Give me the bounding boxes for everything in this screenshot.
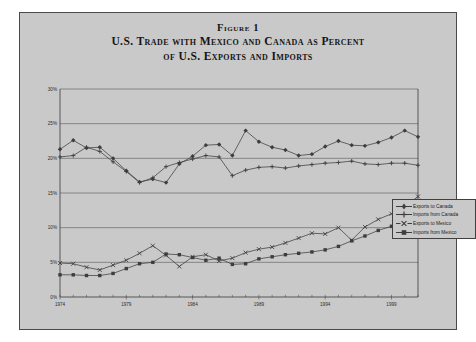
diamond-plus-marker-icon	[396, 203, 412, 210]
legend-item[interactable]: Imports from Mexico	[396, 228, 473, 237]
figure-title-line-1: U.S. Trade with Mexico and Canada as Per…	[20, 34, 456, 49]
figure-number: Figure 1	[20, 21, 456, 34]
x-axis-tick-label: 1999	[386, 302, 397, 307]
x-axis-tick-label: 1979	[121, 302, 132, 307]
y-axis-tick-label: 15%	[48, 191, 57, 196]
x-axis-tick-label: 1989	[254, 302, 265, 307]
legend-label: Imports from Canada	[412, 212, 458, 217]
chart-series	[58, 194, 420, 271]
figure-page: Figure 1 U.S. Trade with Mexico and Cana…	[0, 0, 476, 342]
legend-label: Exports to Mexico	[412, 221, 451, 226]
line-chart: 0%5%10%15%20%25%30%197419791984198919941…	[30, 83, 448, 321]
y-axis-tick-label: 30%	[48, 87, 57, 92]
legend-item[interactable]: Exports to Mexico	[396, 219, 473, 228]
legend-label: Exports to Canada	[412, 204, 453, 209]
y-axis-tick-label: 10%	[48, 225, 57, 230]
chart-legend: Exports to Canada Imports from Canada	[392, 199, 476, 239]
square-marker-icon	[396, 229, 412, 236]
legend-item[interactable]: Imports from Canada	[396, 211, 473, 220]
chart-svg: 0%5%10%15%20%25%30%197419791984198919941…	[30, 83, 448, 321]
legend-label: Imports from Mexico	[412, 230, 456, 235]
figure-title-block: Figure 1 U.S. Trade with Mexico and Cana…	[20, 21, 456, 64]
chart-series	[58, 145, 420, 185]
figure-panel: Figure 1 U.S. Trade with Mexico and Cana…	[19, 12, 457, 330]
x-axis-tick-label: 1974	[55, 302, 66, 307]
y-axis-tick-label: 25%	[48, 121, 57, 126]
y-axis-tick-label: 5%	[50, 260, 57, 265]
x-axis-tick-label: 1984	[187, 302, 198, 307]
y-axis-tick-label: 20%	[48, 156, 57, 161]
figure-title-line-2: of U.S. Exports and Imports	[20, 49, 456, 64]
legend-item[interactable]: Exports to Canada	[396, 202, 473, 211]
chart-series	[58, 128, 420, 184]
x-axis-tick-label: 1994	[320, 302, 331, 307]
plus-marker-icon	[396, 211, 412, 218]
y-axis-tick-label: 0%	[50, 295, 57, 300]
x-marker-icon	[396, 220, 412, 227]
